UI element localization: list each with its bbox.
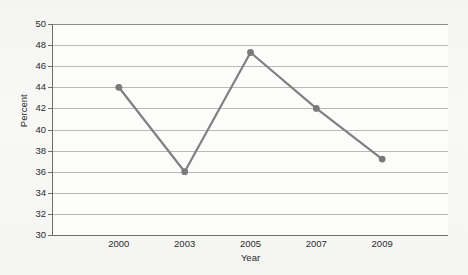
chart-figure: Percent 5048464442403836343230 200020032… [0, 0, 468, 275]
series-line [119, 52, 382, 171]
y-tick-label-46: 46 [2, 61, 46, 71]
data-point-2005 [247, 49, 254, 56]
plot-area [53, 24, 448, 235]
y-tick-label-34: 34 [2, 188, 46, 198]
y-tick-label-30: 30 [2, 230, 46, 240]
y-tick-mark-36 [48, 172, 53, 173]
x-tick-label-2009: 2009 [352, 239, 412, 249]
data-point-2000 [115, 84, 122, 91]
x-tick-label-2003: 2003 [155, 239, 215, 249]
y-tick-mark-42 [48, 108, 53, 109]
x-tick-label-2005: 2005 [221, 239, 281, 249]
data-point-2003 [181, 168, 188, 175]
data-point-2007 [313, 105, 320, 112]
y-tick-mark-50 [48, 24, 53, 25]
y-tick-mark-38 [48, 151, 53, 152]
y-tick-mark-46 [48, 66, 53, 67]
x-axis-spine [52, 235, 448, 236]
y-tick-mark-30 [48, 235, 53, 236]
x-tick-label-2007: 2007 [286, 239, 346, 249]
y-axis-tick-labels: 5048464442403836343230 [0, 0, 46, 275]
y-tick-mark-34 [48, 193, 53, 194]
clipped-caption-remnant [0, 0, 468, 5]
y-tick-mark-32 [48, 214, 53, 215]
y-tick-label-50: 50 [2, 19, 46, 29]
y-tick-label-44: 44 [2, 82, 46, 92]
y-tick-label-38: 38 [2, 146, 46, 156]
data-point-2009 [379, 156, 386, 163]
line-series [53, 24, 448, 235]
y-tick-mark-48 [48, 45, 53, 46]
y-tick-label-40: 40 [2, 125, 46, 135]
y-tick-label-36: 36 [2, 167, 46, 177]
y-tick-label-32: 32 [2, 209, 46, 219]
y-tick-mark-40 [48, 130, 53, 131]
y-tick-label-48: 48 [2, 40, 46, 50]
y-tick-label-42: 42 [2, 103, 46, 113]
x-tick-label-2000: 2000 [89, 239, 149, 249]
x-axis-title: Year [53, 253, 448, 263]
y-tick-mark-44 [48, 87, 53, 88]
